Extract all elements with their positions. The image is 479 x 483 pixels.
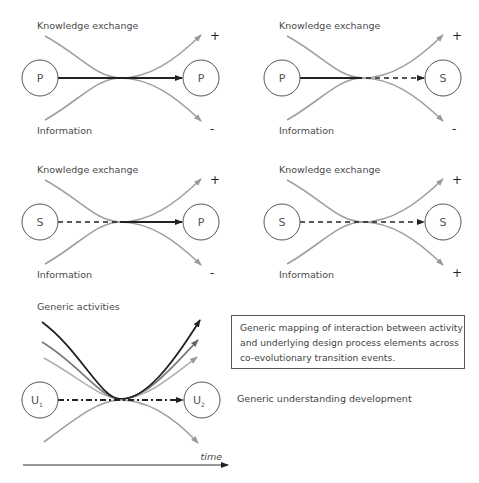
bottom-sign: - <box>210 122 214 136</box>
panel-s-to-s: Knowledge exchange Information S S + + <box>264 164 462 280</box>
left-node-label: P <box>279 72 286 85</box>
knowledge-exchange-label: Knowledge exchange <box>279 164 380 175</box>
panel-p-to-p: Knowledge exchange Information P P + - <box>22 20 220 136</box>
right-node-label: P <box>198 216 205 229</box>
bottom-sign: - <box>210 266 214 280</box>
information-label: Information <box>279 125 334 136</box>
knowledge-curve <box>45 179 201 222</box>
left-node-label: S <box>37 216 44 229</box>
left-node-label: S <box>279 216 286 229</box>
knowledge-exchange-label: Knowledge exchange <box>37 164 138 175</box>
activity-curve-medium <box>42 340 198 399</box>
caption-line-1: Generic mapping of interaction between a… <box>240 320 460 335</box>
knowledge-curve <box>45 35 201 78</box>
panel-generic: Generic activities U1 U2 time <box>22 301 228 465</box>
panel-p-to-s: Knowledge exchange Information P S + - <box>264 20 462 136</box>
knowledge-exchange-label: Knowledge exchange <box>37 20 138 31</box>
knowledge-curve <box>287 179 443 222</box>
left-node-label: P <box>37 72 44 85</box>
bottom-sign: + <box>452 266 462 280</box>
top-sign: + <box>452 173 462 187</box>
information-curve <box>45 222 201 265</box>
top-sign: + <box>210 173 220 187</box>
information-curve <box>287 222 443 265</box>
right-node-label: S <box>440 216 447 229</box>
knowledge-exchange-label: Knowledge exchange <box>279 20 380 31</box>
node-circle-u1 <box>22 382 58 418</box>
information-label: Information <box>279 269 334 280</box>
panel-s-to-p: Knowledge exchange Information S P + - <box>22 164 220 280</box>
information-label: Information <box>37 269 92 280</box>
top-sign: + <box>210 29 220 43</box>
information-label: Information <box>37 125 92 136</box>
node-circle-u2 <box>184 382 220 418</box>
right-node-label: S <box>440 72 447 85</box>
information-curve <box>287 78 443 121</box>
right-node-label: P <box>198 72 205 85</box>
caption-line-2: and underlying design process elements a… <box>240 335 460 350</box>
time-label: time <box>201 451 223 462</box>
information-curve <box>45 78 201 121</box>
knowledge-curve <box>287 35 443 78</box>
understanding-development-label: Generic understanding development <box>237 393 412 404</box>
activity-curve-light <box>44 357 197 399</box>
bottom-sign: - <box>452 122 456 136</box>
diagram-canvas: Knowledge exchange Information P P + - K… <box>0 0 479 483</box>
understanding-curve <box>44 400 198 443</box>
caption-line-3: co-evolutionary transition events. <box>240 350 460 365</box>
caption-box: Generic mapping of interaction between a… <box>231 315 465 369</box>
top-sign: + <box>452 29 462 43</box>
generic-activities-label: Generic activities <box>37 301 120 312</box>
